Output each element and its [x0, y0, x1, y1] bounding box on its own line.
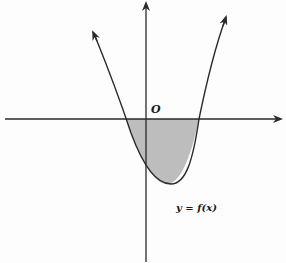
- function-label: y = f(x): [176, 202, 217, 213]
- right-arm-arrow-icon: [223, 17, 226, 26]
- diagram-graphic: [0, 0, 286, 263]
- shaded-region: [126, 119, 199, 184]
- left-arm-arrow-icon: [93, 32, 97, 41]
- parabola-diagram: O y = f(x): [0, 0, 286, 263]
- origin-label: O: [151, 103, 161, 116]
